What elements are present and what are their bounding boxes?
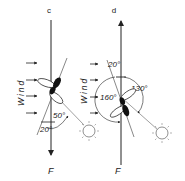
wind-arrows-d xyxy=(90,64,98,113)
sun-icon xyxy=(79,121,99,141)
wind-label-d: Wind xyxy=(79,77,89,104)
angle-label-20-d: 20° xyxy=(107,60,121,69)
diagram: c Wind 50° 20° F xyxy=(0,0,185,181)
wind-label-c: Wind xyxy=(16,79,26,106)
panel-label-d: d xyxy=(112,6,116,15)
angle-label-20: 20° xyxy=(39,125,53,134)
angle-label-160: 160° xyxy=(100,93,117,102)
panel-d: d Wind 20° 130° 160° F xyxy=(79,6,158,176)
panel-c: c Wind 50° 20° F xyxy=(16,6,84,176)
wind-arrows-c xyxy=(26,63,37,113)
force-label-d: F xyxy=(115,166,121,176)
panel-label-c: c xyxy=(47,6,51,15)
angle-label-50: 50° xyxy=(53,111,66,120)
insect-icon xyxy=(32,68,74,106)
sun-icon xyxy=(152,123,172,143)
force-label-c: F xyxy=(48,166,54,176)
